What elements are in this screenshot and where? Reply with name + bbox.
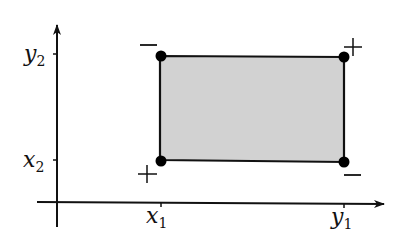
vertex-bottom-left [156,156,167,167]
vertex-top-right [339,52,350,63]
plus-sign-bottom-left [138,165,157,183]
label-x1: x1 [146,203,167,231]
vertex-top-left [156,51,167,62]
label-x2: x2 [23,147,44,175]
label-y2: y2 [23,41,45,69]
diagram-canvas: y2 x2 x1 y1 [0,0,402,243]
vertex-bottom-right [339,157,350,168]
label-y1: y1 [330,204,352,232]
shaded-rectangle [160,56,344,162]
